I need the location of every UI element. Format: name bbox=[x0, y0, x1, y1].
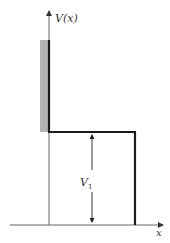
height-label: V1 bbox=[80, 176, 92, 191]
potential-diagram: V(x) x V1 bbox=[0, 0, 170, 243]
height-label-subscript: 1 bbox=[88, 183, 92, 191]
x-axis-label: x bbox=[156, 227, 162, 238]
y-axis-label: V(x) bbox=[55, 12, 78, 25]
infinite-wall-region bbox=[40, 40, 48, 132]
